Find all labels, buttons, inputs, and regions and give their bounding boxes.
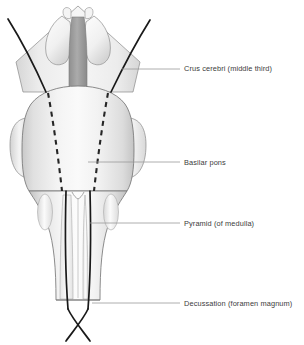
medulla-oblongata — [29, 191, 127, 300]
mammillary-body-right — [85, 16, 111, 65]
decussation-limb-left — [68, 309, 90, 341]
label-decussation: Decussation (foramen magnum) — [184, 299, 292, 308]
brainstem-figure: Crus cerebri (middle third) Basilar pons… — [0, 0, 304, 345]
basilar-pons-body — [10, 86, 146, 191]
label-crus-cerebri: Crus cerebri (middle third) — [184, 64, 272, 73]
brainstem-diagram: Crus cerebri (middle third) Basilar pons… — [0, 0, 304, 345]
label-texts: Crus cerebri (middle third) Basilar pons… — [184, 64, 292, 308]
olive-right — [104, 194, 119, 230]
olive-left — [38, 194, 53, 230]
interpeduncular-median — [69, 17, 87, 92]
mammillary-body-left — [46, 16, 72, 65]
decussation-limb-right — [66, 309, 88, 341]
label-basilar-pons: Basilar pons — [184, 158, 226, 167]
label-pyramid: Pyramid (of medulla) — [184, 219, 254, 228]
